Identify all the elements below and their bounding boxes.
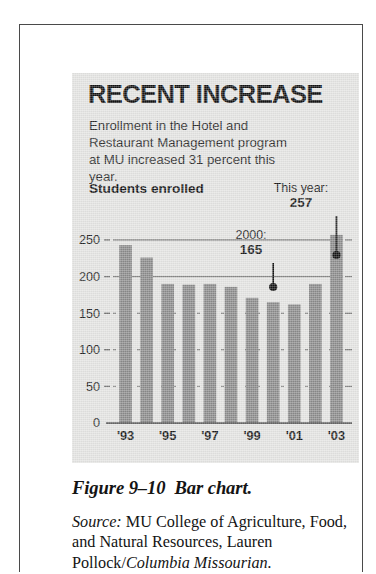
svg-text:'95: '95	[159, 428, 176, 443]
annotation-this-year: This year: 257	[258, 181, 344, 210]
bar-2003	[330, 235, 343, 423]
svg-text:0: 0	[93, 416, 100, 430]
source-label: Source:	[72, 513, 122, 531]
annotation-year-2000: 2000: 165	[214, 228, 288, 257]
svg-text:150: 150	[79, 307, 100, 321]
svg-text:'99: '99	[243, 428, 260, 443]
annotation-year-2000-label: 2000:	[214, 228, 288, 242]
source-line: Source: MU College of Agriculture, Food,…	[72, 512, 364, 573]
svg-text:'93: '93	[117, 428, 134, 443]
bar-1993	[119, 245, 132, 423]
svg-text:50: 50	[86, 380, 100, 394]
svg-text:'01: '01	[286, 428, 303, 443]
source-publication: Columbia Missourian.	[126, 554, 272, 572]
chart-x-axis-labels: '93'95'97'99'01'03	[117, 428, 345, 443]
bar-2001	[288, 304, 301, 423]
bar-1994	[140, 258, 153, 423]
figure-title: Bar chart.	[175, 477, 253, 498]
svg-text:100: 100	[79, 343, 100, 357]
chart-y-axis-ticks: 050100150200250	[79, 233, 110, 430]
figure-number: Figure 9–10	[72, 477, 165, 498]
chart-bars	[119, 235, 343, 423]
figure-caption: Figure 9–10 Bar chart.	[72, 477, 364, 499]
svg-text:'97: '97	[201, 428, 218, 443]
annotation-year-2000-value: 165	[214, 242, 288, 257]
annotation-this-year-label: This year:	[258, 181, 344, 195]
svg-text:250: 250	[79, 233, 100, 247]
caption-block: Figure 9–10 Bar chart. Source: MU Colleg…	[72, 477, 364, 573]
figure-page-frame: RECENT INCREASE Enrollment in the Hotel …	[19, 24, 363, 572]
newspaper-graphic-panel: RECENT INCREASE Enrollment in the Hotel …	[72, 73, 359, 463]
annotation-this-year-value: 257	[258, 195, 344, 210]
bar-2000	[267, 302, 280, 423]
bar-1999	[246, 298, 259, 423]
svg-text:'03: '03	[328, 428, 345, 443]
svg-text:200: 200	[79, 270, 100, 284]
bar-1995	[161, 284, 174, 423]
bar-chart-plot: 050100150200250 '93'95'97'99'01'03	[72, 73, 359, 463]
bar-1996	[182, 285, 195, 423]
bar-2002	[309, 284, 322, 423]
bar-1997	[204, 284, 217, 423]
bar-1998	[225, 287, 238, 423]
